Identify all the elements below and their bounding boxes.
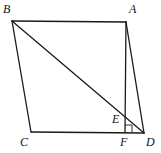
geometry-diagram: ABCDEF xyxy=(0,0,161,153)
right-angle-marker xyxy=(125,125,132,132)
right-angle-square xyxy=(125,125,132,132)
segment-dc xyxy=(31,132,144,133)
segment-ba xyxy=(12,21,126,22)
segment-af xyxy=(125,22,126,132)
label-point-f: F xyxy=(119,135,128,149)
segment-cb xyxy=(12,21,31,132)
segment-bd xyxy=(12,21,144,133)
label-point-c: C xyxy=(20,135,29,149)
label-point-a: A xyxy=(128,2,137,16)
label-point-e: E xyxy=(111,112,120,126)
segment-ad xyxy=(126,22,144,133)
segments xyxy=(12,21,144,133)
label-point-d: D xyxy=(145,135,155,149)
label-point-b: B xyxy=(3,2,11,16)
